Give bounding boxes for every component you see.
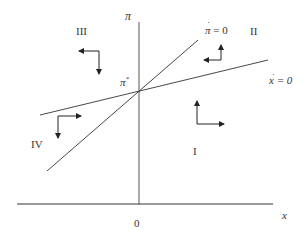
y-axis-label: π [125, 9, 132, 23]
region-III-label: III [76, 25, 87, 37]
region-I-arrows [197, 101, 224, 124]
region-IV-label: IV [31, 138, 43, 150]
origin-label: 0 [134, 217, 140, 229]
x-dot-zero-line [40, 60, 268, 115]
pi-dot-zero-line [47, 40, 198, 171]
x-axis-label: x [281, 209, 287, 221]
phase-diagram: π x 0 π* · π = 0 · x = 0 III II IV I [0, 0, 308, 242]
pi-dot-zero-label: · π = 0 [205, 17, 228, 36]
svg-text:π = 0: π = 0 [205, 24, 228, 36]
region-I-label: I [193, 145, 197, 157]
region-IV-arrows [58, 116, 81, 138]
region-II-label: II [250, 25, 258, 37]
region-II-arrows [204, 45, 221, 60]
svg-text:x = 0: x = 0 [268, 74, 293, 86]
equilibrium-label: π* [120, 75, 130, 88]
region-III-arrows [79, 51, 99, 74]
x-dot-zero-label: · x = 0 [268, 69, 293, 86]
